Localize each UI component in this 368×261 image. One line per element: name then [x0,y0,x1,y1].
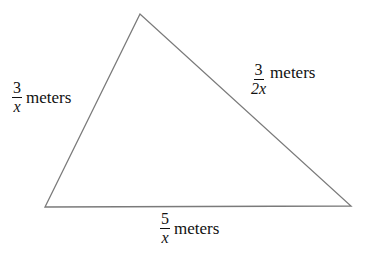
left-side-fraction: 3 x [12,80,22,115]
bottom-side-label: 5 x meters [160,211,219,246]
left-side-denominator: x [13,98,20,115]
right-side-denominator: 2x [251,80,266,97]
left-side-label: 3 x meters [12,80,71,115]
triangle-outline [45,14,351,207]
right-side-unit: meters [270,63,315,83]
left-side-unit: meters [26,88,71,108]
bottom-side-denominator: x [161,229,168,246]
bottom-side-numerator: 5 [160,211,170,229]
bottom-side-unit: meters [174,219,219,239]
right-side-numerator: 3 [254,62,264,80]
right-side-fraction: 3 2x [251,62,266,97]
bottom-side-fraction: 5 x [160,211,170,246]
left-side-numerator: 3 [12,80,22,98]
right-side-label: 3 2x meters [251,62,315,97]
